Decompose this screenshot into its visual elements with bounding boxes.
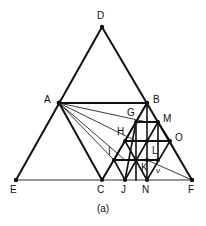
vertex-label-H: H (117, 127, 124, 137)
vertex-dot-C (100, 178, 104, 182)
vertex-dot-E (14, 178, 18, 182)
vertex-label-G: G (127, 108, 135, 118)
vertex-dot-center (145, 139, 149, 143)
vertex-label-K: K (141, 163, 148, 173)
vertex-label-L: L (152, 146, 158, 156)
ray-L-F (170, 141, 192, 180)
vertex-label-M: M (163, 114, 171, 124)
vertex-label-v: v (156, 166, 160, 176)
vertex-dot-F (190, 178, 194, 182)
lattice-line-I-H-edge (114, 141, 125, 160)
lattice-line-M-O-edge (158, 122, 170, 141)
figure-container: D A B G M H O I L K v E C J N F (a) (0, 0, 206, 226)
vertex-label-O: O (175, 133, 183, 143)
vertex-label-E: E (10, 185, 17, 195)
lattice-line-I-F-seg (114, 160, 125, 180)
lattice-line-C-I-edge (102, 160, 114, 180)
vertex-label-F: F (188, 185, 194, 195)
vertex-label-A: A (44, 95, 51, 105)
vertex-label-C: C (97, 185, 104, 195)
vertex-dot-O (168, 139, 172, 143)
vertex-dot-M (156, 120, 160, 124)
lattice-line-G-M-edge (136, 103, 147, 122)
vertex-dot-B (145, 101, 149, 105)
vertex-label-D: D (97, 11, 104, 21)
vertex-dot-J (123, 178, 127, 182)
vertex-dot-L (156, 158, 160, 162)
vertex-dot-H (123, 139, 127, 143)
vertex-dot-mid-I-K (134, 158, 138, 162)
figure-caption: (a) (0, 203, 206, 214)
vertex-label-J: J (121, 185, 126, 195)
vertex-dot-G (134, 120, 138, 124)
vertex-dot-N (145, 178, 149, 182)
vertex-dot-I (112, 158, 116, 162)
vertex-label-B: B (153, 95, 160, 105)
vertex-dot-D (100, 25, 104, 29)
vertex-dot-A (57, 101, 62, 106)
vertex-label-N: N (142, 185, 149, 195)
vertex-label-I: I (108, 147, 111, 157)
ray-A-I (59, 103, 125, 160)
